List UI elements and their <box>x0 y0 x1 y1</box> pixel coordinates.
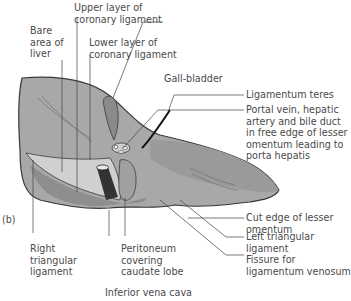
label-peritoneum: Peritoneum covering caudate lobe <box>121 243 183 278</box>
label-fissure: Fissure for ligamentum venosum <box>246 254 351 277</box>
label-right-triangular: Right triangular ligament <box>30 243 77 278</box>
label-lower-layer: Lower layer of coronary ligament <box>89 37 177 60</box>
label-ivc: Inferior vena cava <box>105 287 192 299</box>
panel-label: (b) <box>2 214 16 226</box>
label-left-triangular: Left triangular ligament <box>246 231 314 254</box>
label-ligamentum-teres: Ligamentum teres <box>246 89 334 101</box>
label-bare-area: Bare area of liver <box>30 25 64 60</box>
label-gall-bladder: Gall-bladder <box>164 73 223 85</box>
label-upper-layer: Upper layer of coronary ligament <box>74 2 162 25</box>
label-portal-vein: Portal vein, hepatic artery and bile duc… <box>246 104 348 162</box>
